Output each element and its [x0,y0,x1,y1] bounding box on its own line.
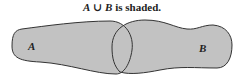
set-b-fill [112,20,232,73]
set-b-label: B [198,42,206,54]
set-a-label: A [27,40,35,52]
venn-diagram: A B [0,0,244,81]
